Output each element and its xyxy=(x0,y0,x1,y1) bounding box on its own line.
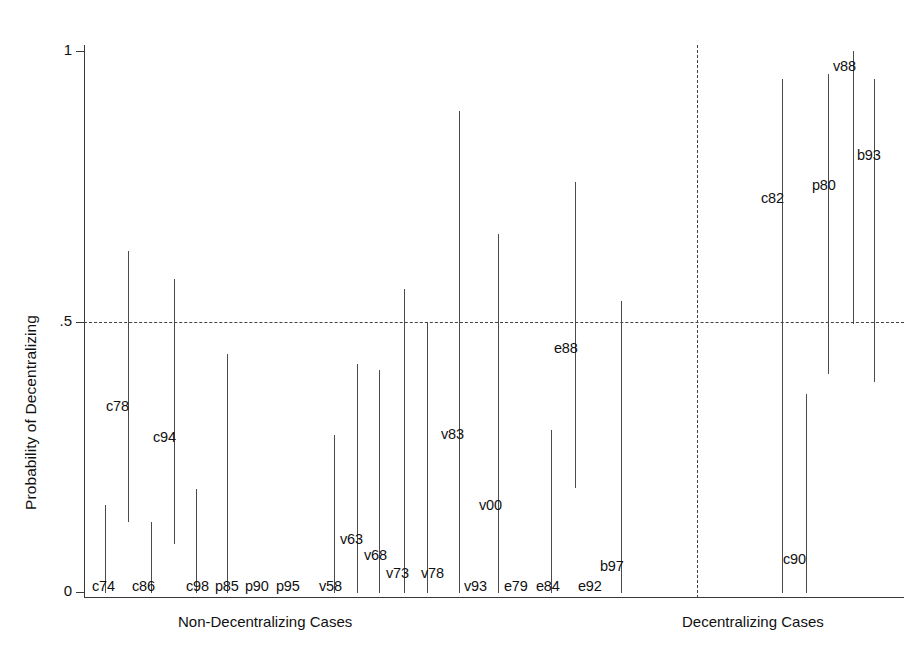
ci-line-b97 xyxy=(621,301,622,593)
case-label-v68: v68 xyxy=(364,547,387,563)
case-label-v78: v78 xyxy=(421,565,444,581)
y-tick-label-half: .5 xyxy=(36,312,72,329)
case-label-p85: p85 xyxy=(215,578,239,594)
case-label-e79: e79 xyxy=(504,578,528,594)
ci-line-v63 xyxy=(357,364,358,593)
reference-line-half xyxy=(84,322,904,323)
ci-line-v58 xyxy=(334,435,335,593)
case-label-c78: c78 xyxy=(106,398,129,414)
case-label-c74: c74 xyxy=(92,578,115,594)
case-label-v88: v88 xyxy=(833,58,856,74)
case-label-p95: p95 xyxy=(276,578,300,594)
case-label-p90: p90 xyxy=(245,578,269,594)
ci-line-b93 xyxy=(874,79,875,382)
case-label-c82: c82 xyxy=(761,190,784,206)
case-label-e84: e84 xyxy=(536,578,560,594)
ci-line-v88 xyxy=(853,51,854,324)
y-axis-title: Probability of Decentralizing xyxy=(22,315,40,510)
case-label-v73: v73 xyxy=(386,565,409,581)
ci-line-e84 xyxy=(551,430,552,593)
case-label-v00: v00 xyxy=(479,497,502,513)
ci-line-c82 xyxy=(782,79,783,593)
ci-line-v93 xyxy=(459,111,460,593)
case-label-c90: c90 xyxy=(783,551,806,567)
group-label-decentralizing: Decentralizing Cases xyxy=(682,613,824,630)
ci-line-e79 xyxy=(498,234,499,593)
ci-line-c78 xyxy=(128,251,129,522)
case-label-b97: b97 xyxy=(600,558,624,574)
group-label-non-decentralizing: Non-Decentralizing Cases xyxy=(178,613,352,630)
ci-line-p80 xyxy=(828,74,829,374)
ci-line-e88 xyxy=(575,182,576,488)
ci-line-c94 xyxy=(174,279,175,544)
case-label-c98: c98 xyxy=(186,578,209,594)
case-label-v58: v58 xyxy=(319,578,342,594)
group-divider xyxy=(697,45,698,598)
chart-root: 1 .5 0 Probability of Decentralizing xyxy=(0,0,915,656)
case-label-v63: v63 xyxy=(340,531,363,547)
case-label-c86: c86 xyxy=(132,578,155,594)
x-axis-line xyxy=(84,597,904,598)
ci-line-c90 xyxy=(806,394,807,593)
case-label-b93: b93 xyxy=(857,147,881,163)
plot-area: 1 .5 0 Probability of Decentralizing xyxy=(0,0,915,656)
case-label-v93: v93 xyxy=(464,578,487,594)
y-tick-label-1: 1 xyxy=(36,41,72,58)
case-label-e88: e88 xyxy=(554,340,578,356)
case-label-v83: v83 xyxy=(441,426,464,442)
y-tick-label-0: 0 xyxy=(36,582,72,599)
y-tick-1 xyxy=(76,51,84,52)
y-tick-half xyxy=(76,322,84,323)
ci-line-v73 xyxy=(404,289,405,593)
ci-line-v78 xyxy=(427,322,428,593)
case-label-p80: p80 xyxy=(812,177,836,193)
y-tick-0 xyxy=(76,592,84,593)
case-label-c94: c94 xyxy=(153,429,176,445)
case-label-e92: e92 xyxy=(578,578,602,594)
ci-line-p85 xyxy=(227,354,228,593)
